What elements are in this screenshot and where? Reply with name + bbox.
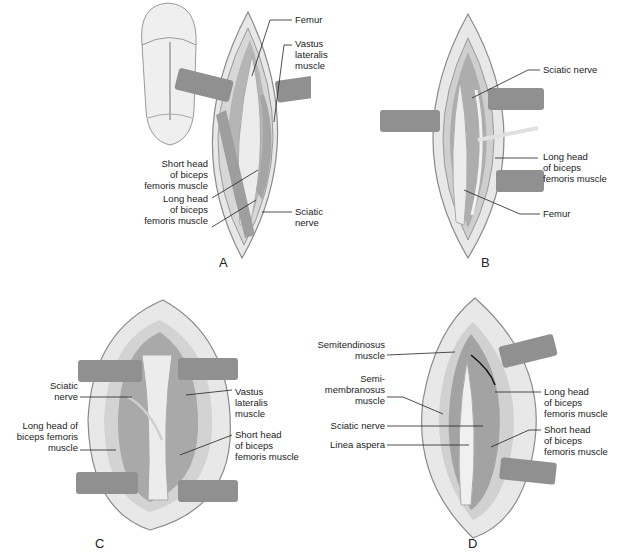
incision-a-illustration [0,0,311,275]
panel-letter-d: D [468,536,477,551]
label-long-head-biceps-femoris: Long head of biceps femoris muscle [130,193,208,226]
label-short-head-biceps-femoris: Short head of biceps femoris muscle [235,429,299,462]
panel-letter-c: C [95,536,104,551]
label-vastus-lateralis-muscle: Vastus lateralis muscle [295,38,328,71]
panel-letter-a: A [219,255,228,270]
label-sciatic-nerve: Sciatic nerve [295,206,323,228]
label-sciatic-nerve: Sciatic nerve [14,380,78,402]
label-long-head-biceps-femoris: Long head of biceps femoris muscle [6,420,78,453]
panel-b: Sciatic nerve Long head of biceps femori… [360,0,622,275]
panel-letter-b: B [481,255,490,270]
label-sciatic-nerve: Sciatic nerve [295,420,385,431]
label-short-head-biceps-femoris: Short head of biceps femoris muscle [544,424,608,457]
incision-b-illustration [360,0,622,275]
label-short-head-biceps-femoris: Short head of biceps femoris muscle [130,158,208,191]
label-femur: Femur [543,208,570,219]
label-femur: Femur [295,14,322,25]
label-sciatic-nerve: Sciatic nerve [543,64,597,75]
label-long-head-biceps-femoris: Long head of biceps femoris muscle [543,151,607,184]
label-long-head-biceps-femoris: Long head of biceps femoris muscle [544,386,608,419]
label-semitendinosus-muscle: Semitendinosus muscle [295,339,385,361]
panel-c: Sciatic nerve Long head of biceps femori… [0,280,310,556]
label-linea-aspera: Linea aspera [295,439,385,450]
label-vastus-lateralis-muscle: Vastus lateralis muscle [235,386,268,419]
panel-a: Femur Vastus lateralis muscle Short head… [0,0,311,275]
panel-d: Semitendinosus muscle Semi- membranosus … [295,280,622,556]
label-semimembranosus-muscle: Semi- membranosus muscle [295,373,385,406]
